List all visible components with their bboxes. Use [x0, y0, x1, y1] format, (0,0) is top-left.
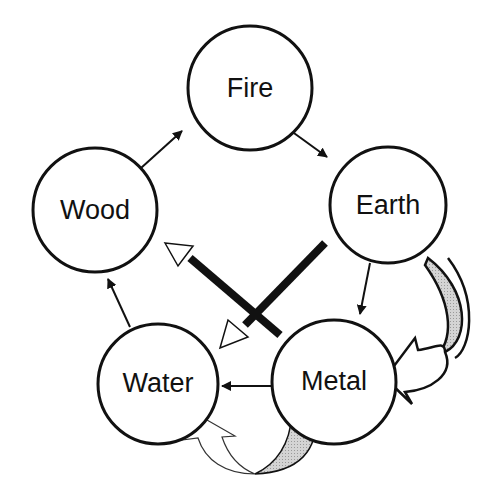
bar-arrow-metal-to-wood	[165, 243, 280, 335]
node-label-wood: Wood	[60, 195, 130, 225]
node-water: Water	[98, 324, 218, 444]
node-metal: Metal	[272, 320, 396, 444]
node-earth: Earth	[330, 147, 446, 263]
node-wood: Wood	[33, 148, 157, 272]
node-fire: Fire	[188, 26, 312, 150]
arrow-wood-to-fire	[141, 131, 182, 168]
node-label-fire: Fire	[227, 73, 274, 103]
node-label-earth: Earth	[356, 190, 421, 220]
node-label-water: Water	[122, 368, 193, 398]
five-elements-diagram: Fire Earth Metal Water Wood	[0, 0, 501, 504]
node-label-metal: Metal	[301, 366, 367, 396]
curved-arrow-earth-to-metal	[385, 258, 469, 404]
arrow-water-to-wood	[108, 279, 130, 327]
arrow-earth-to-metal	[360, 263, 370, 314]
